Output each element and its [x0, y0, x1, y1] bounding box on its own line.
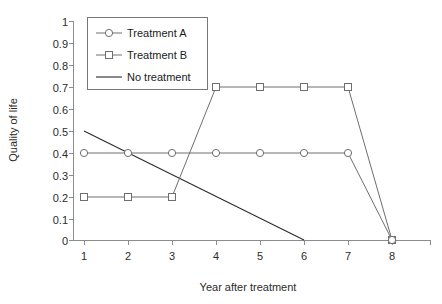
x-tick-label: 8 — [389, 250, 395, 262]
y-tick-label: 0.9 — [53, 38, 68, 50]
chart-legend: Treatment A Treatment B No treatment — [88, 18, 208, 90]
legend-label: No treatment — [127, 71, 191, 83]
treatment-a-marker — [300, 149, 307, 156]
x-tick-label: 5 — [257, 250, 263, 262]
x-tick-label: 4 — [213, 250, 219, 262]
x-tick-label: 1 — [81, 250, 87, 262]
x-tick-label: 6 — [301, 250, 307, 262]
y-axis-title: Quality of life — [7, 98, 19, 162]
x-tick-label: 7 — [345, 250, 351, 262]
treatment-a-marker — [256, 149, 263, 156]
treatment-b-marker — [301, 84, 308, 91]
square-marker-icon — [106, 52, 113, 59]
y-tick-label: 0.3 — [53, 170, 68, 182]
y-tick-label: 0 — [62, 235, 68, 247]
treatment-b-line — [84, 87, 392, 240]
y-tick-label: 0.4 — [53, 148, 68, 160]
y-axis-ticks — [69, 22, 74, 241]
x-axis-tick-labels: 1 2 3 4 5 6 7 8 — [81, 250, 395, 262]
treatment-b-marker — [125, 194, 132, 201]
treatment-b-marker — [345, 84, 352, 91]
y-tick-label: 0.7 — [53, 82, 68, 94]
legend-label: Treatment B — [127, 49, 187, 61]
treatment-b-marker — [213, 84, 220, 91]
x-axis-title: Year after treatment — [200, 281, 297, 293]
series-treatment-b — [81, 84, 396, 244]
y-tick-label: 1 — [62, 16, 68, 28]
legend-label: Treatment A — [127, 27, 187, 39]
treatment-b-marker — [257, 84, 264, 91]
treatment-a-marker — [388, 236, 395, 243]
treatment-b-marker — [81, 194, 88, 201]
y-axis-tick-labels: 1 0.9 0.8 0.7 0.6 0.5 0.4 0.3 0.2 0.1 0 — [53, 16, 68, 247]
x-tick-label: 3 — [169, 250, 175, 262]
x-axis-ticks — [85, 241, 431, 246]
treatment-a-marker — [80, 149, 87, 156]
circle-marker-icon — [105, 29, 112, 36]
chart-container: Quality of life 1 0.9 0.8 0.7 0.6 0.5 0.… — [0, 0, 442, 304]
y-tick-label: 0.6 — [53, 104, 68, 116]
treatment-a-marker — [168, 149, 175, 156]
y-tick-label: 0.2 — [53, 192, 68, 204]
y-tick-label: 0.8 — [53, 60, 68, 72]
quality-of-life-line-chart: Quality of life 1 0.9 0.8 0.7 0.6 0.5 0.… — [0, 0, 442, 304]
treatment-a-marker — [344, 149, 351, 156]
treatment-a-marker — [212, 149, 219, 156]
x-tick-label: 2 — [125, 250, 131, 262]
treatment-b-marker — [169, 194, 176, 201]
treatment-a-marker — [124, 149, 131, 156]
no-treatment-line — [84, 131, 304, 240]
y-tick-label: 0.5 — [53, 126, 68, 138]
y-tick-label: 0.1 — [53, 214, 68, 226]
series-no-treatment — [84, 131, 304, 240]
